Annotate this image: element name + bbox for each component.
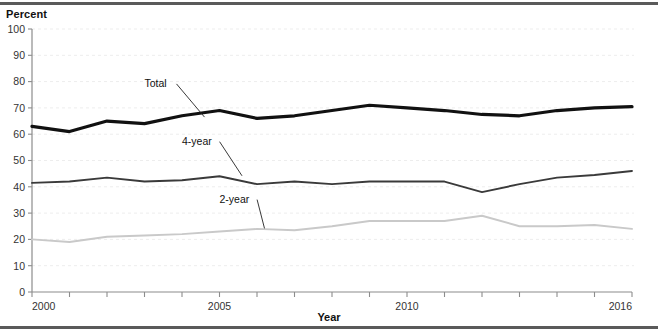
y-tick-label-100: 100 [7,23,25,35]
series-annotation-2-year: 2-year [220,193,250,205]
y-tick-label-60: 60 [13,128,25,140]
series-annotation-4-year: 4-year [182,135,212,147]
y-tick-label-10: 10 [13,260,25,272]
y-tick-label-20: 20 [13,233,25,245]
y-tick-label-30: 30 [13,207,25,219]
leader-line-2-year [257,200,264,229]
bottom-divider-rule [0,326,658,329]
y-tick-label-70: 70 [13,102,25,114]
series-annotation-total: Total [145,77,167,89]
line-chart-plot: 01020304050607080901002000200520102016To… [0,0,658,334]
y-tick-label-50: 50 [13,154,25,166]
y-tick-label-0: 0 [19,286,25,298]
series-line-total [32,105,632,131]
x-axis-ticks [32,292,632,297]
series-line-2-year [32,216,632,242]
leader-line-total [177,84,205,117]
gridlines [32,29,634,266]
y-tick-label-40: 40 [13,181,25,193]
x-axis-title: Year [0,311,658,323]
y-tick-label-90: 90 [13,49,25,61]
leader-line-4-year [220,142,242,176]
chart-figure: Percent 01020304050607080901002000200520… [0,0,658,334]
series-line-4-year [32,171,632,192]
y-axis-ticks: 0102030405060708090100 [7,23,32,298]
y-tick-label-80: 80 [13,75,25,87]
